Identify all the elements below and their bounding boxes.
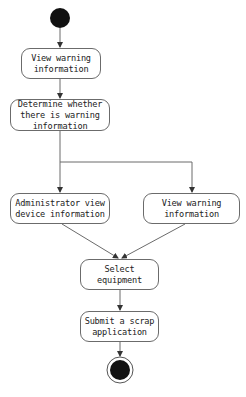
start-node <box>50 8 70 28</box>
activity-view-warning-information-2: View warning information <box>143 193 240 224</box>
activity-label: View warning information <box>31 53 91 75</box>
activity-select-equipment: Select equipment <box>80 259 159 290</box>
activity-determine-warning: Determine whether there is warning infor… <box>10 99 110 131</box>
activity-label: Determine whether there is warning infor… <box>18 99 103 132</box>
edge-n4-n5 <box>122 224 185 258</box>
edge-n2-n4 <box>60 162 192 192</box>
activity-admin-view-device: Administrator view device information <box>10 193 110 224</box>
end-node <box>110 360 130 380</box>
activity-label: Select equipment <box>84 264 155 286</box>
activity-view-warning-information: View warning information <box>21 48 101 79</box>
edge-n3-n5 <box>62 224 118 258</box>
activity-submit-scrap-application: Submit a scrap application <box>80 311 159 342</box>
activity-label: View warning information <box>162 198 222 220</box>
activity-label: Administrator view device information <box>15 198 105 220</box>
activity-label: Submit a scrap application <box>85 316 155 338</box>
